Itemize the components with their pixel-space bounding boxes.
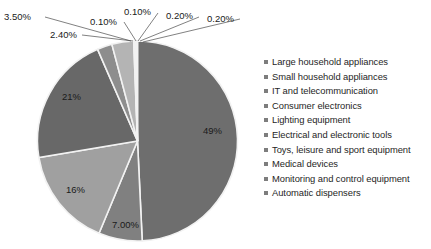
slice-value-label: 21% — [62, 91, 82, 102]
legend-item[interactable]: Medical devices — [264, 159, 431, 174]
pie-chart-figure: 49%7.00%16%21% 3.50%2.40%0.10%0.10%0.20%… — [0, 0, 431, 249]
legend-swatch-icon — [264, 162, 268, 166]
legend-item[interactable]: IT and telecommunication — [264, 86, 431, 101]
callout-value-label: 0.20% — [166, 10, 193, 21]
slice-value-label: 7.00% — [112, 219, 139, 230]
legend-item-label: Consumer electronics — [272, 101, 362, 110]
callout-value-label: 0.20% — [207, 13, 234, 24]
legend-swatch-icon — [264, 191, 268, 195]
legend-item-label: Small household appliances — [272, 72, 387, 81]
callout-value-label-group: 3.50%2.40%0.10%0.10%0.20%0.20% — [4, 6, 234, 40]
legend-swatch-icon — [264, 104, 268, 108]
callout-value-label: 0.10% — [90, 16, 117, 27]
callout-leader-line — [138, 13, 158, 41]
legend-item[interactable]: Consumer electronics — [264, 101, 431, 116]
legend-swatch-icon — [264, 118, 268, 122]
legend-item[interactable]: Lighting equipment — [264, 115, 431, 130]
legend-item[interactable]: Small household appliances — [264, 72, 431, 87]
slice-value-label: 16% — [66, 184, 86, 195]
legend-item-label: Electrical and electronic tools — [272, 130, 392, 139]
legend-item-label: Toys, leisure and sport equipment — [272, 145, 411, 154]
callout-value-label: 3.50% — [4, 11, 31, 22]
legend-swatch-icon — [264, 89, 268, 93]
legend-item[interactable]: Electrical and electronic tools — [264, 130, 431, 145]
legend-swatch-icon — [264, 177, 268, 181]
chart-legend: Large household appliancesSmall househol… — [264, 57, 431, 203]
legend-item-label: Automatic dispensers — [272, 188, 361, 197]
pie-slice — [138, 41, 238, 241]
legend-item-label: Large household appliances — [272, 57, 388, 66]
legend-item-label: Medical devices — [272, 159, 338, 168]
legend-swatch-icon — [264, 148, 268, 152]
legend-item-label: IT and telecommunication — [272, 86, 378, 95]
legend-item-label: Monitoring and control equipment — [272, 174, 410, 183]
legend-item[interactable]: Large household appliances — [264, 57, 431, 72]
legend-item[interactable]: Automatic dispensers — [264, 188, 431, 203]
pie-slice-group — [38, 41, 238, 241]
callout-value-label: 2.40% — [50, 29, 77, 40]
callout-leader-line — [82, 35, 133, 41]
legend-swatch-icon — [264, 60, 268, 64]
legend-item-label: Lighting equipment — [272, 115, 350, 124]
slice-value-label: 49% — [203, 125, 223, 136]
callout-leader-line — [124, 22, 136, 41]
legend-item[interactable]: Toys, leisure and sport equipment — [264, 145, 431, 160]
legend-item[interactable]: Monitoring and control equipment — [264, 174, 431, 189]
callout-value-label: 0.10% — [124, 6, 151, 17]
legend-swatch-icon — [264, 75, 268, 79]
legend-swatch-icon — [264, 133, 268, 137]
